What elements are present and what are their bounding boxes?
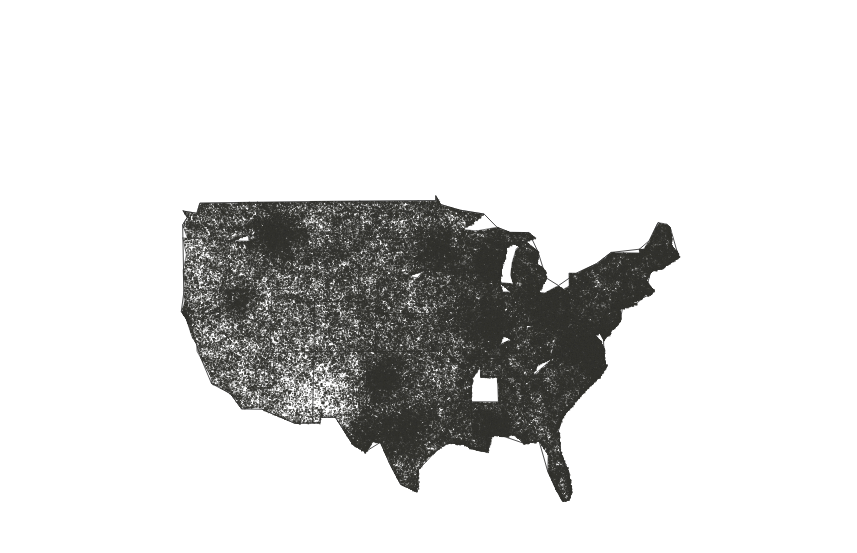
us-map-svg: [0, 0, 857, 553]
state-outline-nm: [313, 351, 368, 423]
state-outline-fl: [503, 427, 571, 500]
state-outline-ks: [375, 314, 440, 352]
state-outline-ar: [441, 358, 481, 402]
state-outline-or: [183, 238, 252, 291]
state-outline-wa: [183, 202, 250, 241]
state-outline-pa: [563, 286, 614, 319]
state-outline-co: [314, 301, 376, 352]
dot-density-map-figure: [0, 0, 857, 553]
state-outline-wy: [298, 251, 359, 302]
state-outline-vt: [623, 253, 640, 282]
state-outline-me: [644, 223, 679, 277]
state-outline-ct: [622, 290, 638, 303]
state-outline-mi: [500, 241, 547, 292]
state-outline-sd: [359, 238, 425, 276]
state-outline-nd: [359, 201, 421, 239]
